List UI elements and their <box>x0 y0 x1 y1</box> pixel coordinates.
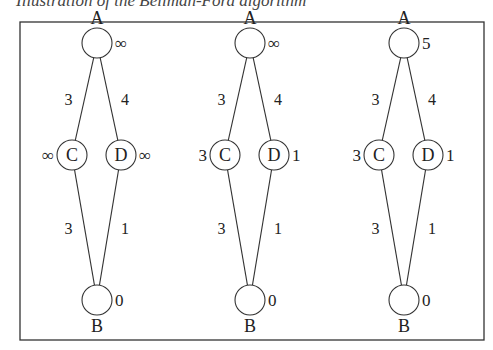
node-A: A∞ <box>82 8 127 58</box>
distance-label: 1 <box>446 146 455 165</box>
edge-C-B <box>75 170 95 285</box>
edge-weight-label: 3 <box>218 91 226 108</box>
edge-weight-label: 3 <box>65 91 73 108</box>
edge-A-C <box>75 58 93 141</box>
node-label: C <box>219 145 231 165</box>
node-C: C∞ <box>42 140 87 170</box>
node-circle <box>235 285 265 315</box>
distance-label: ∞ <box>268 34 280 53</box>
node-A: A5 <box>389 8 431 58</box>
node-label: B <box>91 316 103 336</box>
distance-label: 5 <box>422 34 431 53</box>
node-label: A <box>398 8 411 28</box>
edge-weight-label: 1 <box>428 220 436 237</box>
distance-label: 0 <box>268 291 277 310</box>
distance-label: ∞ <box>42 146 54 165</box>
node-C: C3 <box>353 140 395 170</box>
node-label: B <box>244 316 256 336</box>
node-D: D1 <box>259 140 301 170</box>
edge-A-D <box>407 58 425 141</box>
edge-weight-label: 1 <box>121 220 129 237</box>
edge-D-B <box>99 170 118 285</box>
graph-panel-step-2: 3431A∞C3D1B0 <box>199 8 301 336</box>
node-label: D <box>115 145 128 165</box>
node-label: C <box>66 145 78 165</box>
graph-panel-step-1: 3431A∞C∞D∞B0 <box>42 8 151 336</box>
node-label: B <box>398 316 410 336</box>
node-D: D1 <box>413 140 455 170</box>
edge-weight-label: 3 <box>372 91 380 108</box>
edge-weight-label: 3 <box>65 220 73 237</box>
node-label: D <box>422 145 435 165</box>
node-circle <box>82 285 112 315</box>
edge-A-D <box>100 58 118 141</box>
edge-C-B <box>228 170 248 285</box>
distance-label: ∞ <box>139 146 151 165</box>
distance-label: 0 <box>422 291 431 310</box>
edge-weight-label: 1 <box>274 220 282 237</box>
edge-A-C <box>382 58 400 141</box>
node-label: A <box>244 8 257 28</box>
node-C: C3 <box>199 140 241 170</box>
node-circle <box>389 28 419 58</box>
edge-C-B <box>382 170 402 285</box>
node-circle <box>235 28 265 58</box>
edge-weight-label: 3 <box>218 220 226 237</box>
node-D: D∞ <box>106 140 151 170</box>
node-label: C <box>373 145 385 165</box>
node-circle <box>389 285 419 315</box>
distance-label: 1 <box>292 146 301 165</box>
node-B: B0 <box>235 285 277 336</box>
edge-A-C <box>228 58 246 141</box>
distance-label: 3 <box>353 146 362 165</box>
edge-A-D <box>253 58 271 141</box>
edge-D-B <box>406 170 425 285</box>
node-label: D <box>268 145 281 165</box>
node-B: B0 <box>389 285 431 336</box>
node-A: A∞ <box>235 8 280 58</box>
edge-weight-label: 4 <box>121 91 129 108</box>
graph-panel-step-3: 3431A5C3D1B0 <box>353 8 455 336</box>
distance-label: 3 <box>199 146 208 165</box>
node-B: B0 <box>82 285 124 336</box>
graph-diagram: 3431A∞C∞D∞B03431A∞C3D1B03431A5C3D1B0 <box>0 0 493 350</box>
distance-label: 0 <box>115 291 124 310</box>
node-circle <box>82 28 112 58</box>
edge-weight-label: 4 <box>428 91 436 108</box>
edge-D-B <box>252 170 271 285</box>
edge-weight-label: 3 <box>372 220 380 237</box>
distance-label: ∞ <box>115 34 127 53</box>
node-label: A <box>91 8 104 28</box>
edge-weight-label: 4 <box>274 91 282 108</box>
